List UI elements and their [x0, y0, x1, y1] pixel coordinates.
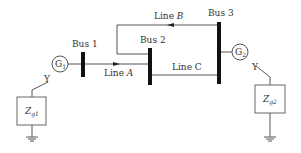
line-c: Line C	[152, 62, 217, 75]
line-a: Line A	[85, 62, 148, 78]
bus-1-label: Bus 1	[72, 39, 98, 49]
bus-1-bar	[81, 52, 85, 77]
bus-2: Bus 2	[140, 35, 166, 85]
bus-3-bar	[217, 22, 221, 84]
generator-2: G2	[221, 44, 248, 60]
generator-1: G1	[52, 56, 81, 72]
line-c-label: Line C	[172, 62, 202, 72]
grounding-zg2: Y Zg2	[251, 62, 285, 141]
power-system-diagram: Bus 1 G1 Line A Bus 2 Line B Line C Bus …	[0, 0, 301, 153]
bus-2-bar	[148, 48, 152, 85]
ground-icon	[264, 137, 276, 141]
ground-icon	[26, 137, 38, 141]
line-b-label: Line B	[154, 11, 184, 21]
grounding-zg1: Y Zg1	[17, 74, 51, 141]
line-b: Line B	[117, 11, 217, 54]
line-a-label: Line A	[104, 68, 134, 78]
wye-symbol-1: Y	[43, 74, 51, 84]
arrow-right-icon	[113, 62, 120, 66]
bus-3-label: Bus 3	[208, 8, 234, 18]
arrow-left-icon	[167, 23, 174, 27]
bus-2-label: Bus 2	[140, 35, 166, 45]
bus-3: Bus 3	[208, 8, 234, 84]
bus-1: Bus 1	[72, 39, 98, 77]
